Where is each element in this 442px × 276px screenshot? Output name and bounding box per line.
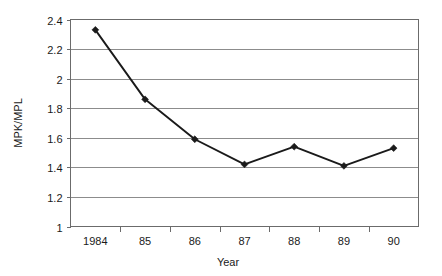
x-tick-label: 85 (139, 235, 151, 247)
y-tick-label: 1.4 (47, 162, 62, 174)
y-axis-title: MPK/MPL (12, 98, 24, 148)
y-tick-label: 1.8 (47, 103, 62, 115)
y-tick-label: 2.4 (47, 15, 62, 27)
x-axis-title: Year (217, 256, 240, 268)
y-tick-label: 2 (56, 74, 62, 86)
x-tick-label: 89 (338, 235, 350, 247)
x-tick-label: 90 (388, 235, 400, 247)
x-tick-label: 86 (189, 235, 201, 247)
y-tick-label: 1.6 (47, 133, 62, 145)
x-tick-label: 87 (238, 235, 250, 247)
y-tick-label: 1 (56, 222, 62, 234)
y-tick-label: 2.2 (47, 44, 62, 56)
chart-container: 11.21.41.61.822.22.4 1984858687888990 Ye… (0, 0, 442, 276)
y-tick-label: 1.2 (47, 192, 62, 204)
line-chart: 11.21.41.61.822.22.4 1984858687888990 Ye… (0, 0, 442, 276)
x-tick-label: 1984 (83, 235, 107, 247)
x-tick-label: 88 (288, 235, 300, 247)
